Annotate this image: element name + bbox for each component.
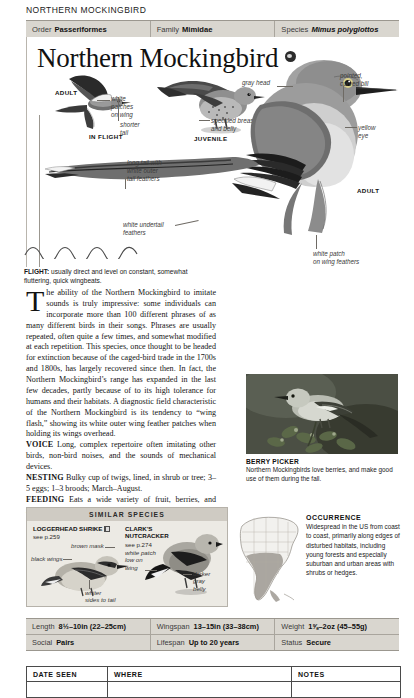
juvenile-label: JUVENILE <box>194 135 227 142</box>
log-col-where: WHERE <box>108 667 292 681</box>
leader-line <box>97 100 110 101</box>
log-header-row: DATE SEEN WHERE NOTES <box>27 667 400 682</box>
clarks-nutcracker-illustration <box>145 530 223 600</box>
illustration-plate: Northern Mockingbird ADULT white patches… <box>26 37 400 267</box>
stat-weight-value: 1⅝–2oz (45–55g) <box>308 622 367 631</box>
brown-mask-annotation: brown mask <box>71 542 104 549</box>
range-map <box>236 512 304 604</box>
taxonomy-family-value: Mimidae <box>182 25 212 34</box>
stats-table: Length 8½–10in (22–25cm) Wingspan 13–15i… <box>26 618 399 651</box>
stat-social: Social Pairs <box>26 635 151 650</box>
taxonomy-family-label: Family <box>157 25 179 34</box>
occurrence-text: Widespread in the US from coast to coast… <box>306 522 401 578</box>
taxonomy-species-value: Mimus polyglottos <box>311 25 378 34</box>
leader-line <box>125 177 126 189</box>
taxonomy-family: Family Mimidae <box>151 21 276 38</box>
pointed-curved-bill-annotation: pointed, curved bill <box>340 72 368 88</box>
main-paragraph: The ability of the Northern Mockingbird … <box>26 288 216 440</box>
photo-caption-text: Northern Mockingbirds love berries, and … <box>246 466 401 483</box>
darker-gray-belly-annotation: darker gray belly <box>193 570 210 592</box>
shorter-tail-annotation: shorter tail <box>120 121 140 137</box>
log-col-notes: NOTES <box>292 667 400 681</box>
leader-line <box>277 86 293 87</box>
log-col-date-seen: DATE SEEN <box>27 667 108 681</box>
leader-line <box>89 580 90 589</box>
audio-marker-icon <box>104 526 110 532</box>
leader-line <box>199 120 210 121</box>
leader-line <box>105 547 115 548</box>
similar-species-1-name-text: LOGGERHEAD SHRIKE <box>33 525 102 532</box>
stat-wingspan: Wingspan 13–15in (33–38cm) <box>151 619 276 634</box>
feeding-label: FEEDING <box>26 495 64 504</box>
main-paragraph-text: he ability of the Northern Mockingbird t… <box>26 288 216 438</box>
gray-head-annotation: gray head <box>242 79 270 87</box>
flight-note-label: FLIGHT: <box>24 268 49 275</box>
flight-note: FLIGHT: usually direct and level on cons… <box>24 268 209 285</box>
black-wings-annotation: black wings <box>31 555 63 562</box>
photo-caption-title: BERRY PICKER <box>246 458 299 465</box>
taxonomy-order: Order Passeriformes <box>26 21 151 38</box>
stat-status-value: Secure <box>306 638 331 647</box>
stats-row: Social Pairs Lifespan Up to 20 years Sta… <box>26 635 399 650</box>
taxonomy-order-label: Order <box>32 25 51 34</box>
similar-species-box: SIMILAR SPECIES LOGGERHEAD SHRIKE see p.… <box>26 507 228 607</box>
stats-row: Length 8½–10in (22–25cm) Wingspan 13–15i… <box>26 619 399 635</box>
occurrence-title: OCCURRENCE <box>306 514 361 521</box>
voice-section: VOICE Long, complex repertoire often imi… <box>26 440 216 473</box>
similar-species-heading: SIMILAR SPECIES <box>27 508 227 521</box>
leader-line <box>316 235 317 249</box>
log-cell-notes[interactable] <box>292 682 400 697</box>
taxonomy-order-value: Passeriformes <box>54 25 106 34</box>
stat-length-value: 8½–10in (22–25cm) <box>59 622 126 631</box>
stat-social-label: Social <box>32 638 52 647</box>
leader-line <box>118 97 119 121</box>
flight-note-text: usually direct and level on constant, so… <box>24 268 187 284</box>
leader-line <box>63 559 72 560</box>
stat-status-label: Status <box>281 638 302 647</box>
yellow-eye-annotation: yellow eye <box>358 124 376 140</box>
voice-text: Long, complex repertoire often imitating… <box>26 440 216 471</box>
leader-line <box>175 220 199 226</box>
white-undertail-annotation: white undertail feathers <box>123 221 164 237</box>
running-head: NORTHERN MOCKINGBIRD <box>26 5 146 15</box>
stat-lifespan: Lifespan Up to 20 years <box>151 635 276 650</box>
species-account-text: The ability of the Northern Mockingbird … <box>26 288 216 516</box>
leader-line <box>343 86 344 102</box>
taxonomy-species-label: Species <box>281 25 308 34</box>
adult-flight-label: ADULT <box>55 89 78 96</box>
long-tail-annotation: long tail with white outer tail feathers <box>127 159 162 183</box>
berry-picker-photo <box>246 374 398 454</box>
sighting-log-table: DATE SEEN WHERE NOTES <box>26 666 401 698</box>
nesting-section: NESTING Bulky cup of twigs, lined, in sh… <box>26 473 216 495</box>
white-patch-low-on-wing-annotation: white patch low on wing <box>125 549 156 571</box>
voice-label: VOICE <box>26 440 53 449</box>
log-entry-row[interactable] <box>27 682 400 697</box>
stat-lifespan-value: Up to 20 years <box>189 638 240 647</box>
similar-species-1-page-ref[interactable]: see p.259 <box>33 533 60 540</box>
stat-length: Length 8½–10in (22–25cm) <box>26 619 151 634</box>
stat-length-label: Length <box>32 622 55 631</box>
in-flight-label: IN FLIGHT <box>89 133 123 140</box>
leader-line <box>345 127 357 128</box>
nesting-label: NESTING <box>26 473 64 482</box>
stat-wingspan-label: Wingspan <box>157 622 190 631</box>
leader-line <box>183 574 192 575</box>
leader-line <box>145 570 157 571</box>
white-patch-wing-feathers-annotation: white patch on wing feathers <box>313 250 359 266</box>
whiter-sides-to-tail-annotation: whiter sides to tail <box>85 589 115 604</box>
log-cell-where[interactable] <box>108 682 292 697</box>
adult-label: ADULT <box>357 187 380 194</box>
drop-cap: T <box>26 288 46 313</box>
stat-status: Status Secure <box>275 635 399 650</box>
similar-species-1-name: LOGGERHEAD SHRIKE <box>33 525 110 532</box>
taxonomy-species: Species Mimus polyglottos <box>275 21 399 38</box>
log-cell-date-seen[interactable] <box>27 682 108 697</box>
white-patches-on-wing-annotation: white patches on wing <box>111 95 133 119</box>
flight-pattern-sonogram <box>24 243 142 259</box>
stat-social-value: Pairs <box>56 638 74 647</box>
stat-weight-label: Weight <box>281 622 304 631</box>
stat-wingspan-value: 13–15in (33–38cm) <box>194 622 259 631</box>
stat-lifespan-label: Lifespan <box>157 638 185 647</box>
stat-weight: Weight 1⅝–2oz (45–55g) <box>275 619 399 634</box>
